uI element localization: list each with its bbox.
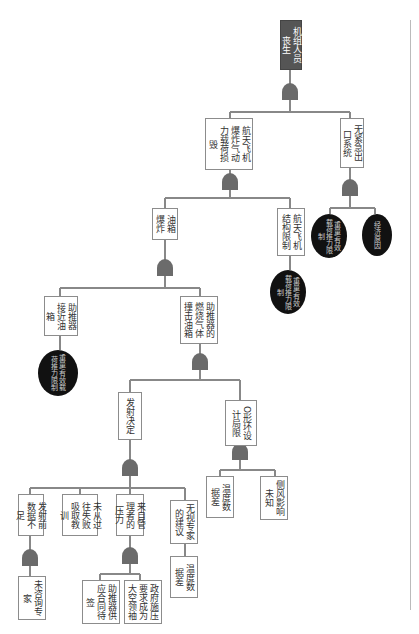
edge <box>130 344 240 400</box>
event-booster-gas-hits-tank: 助推器的燃烧气体撞击油箱 <box>180 296 218 344</box>
and-gate <box>192 353 208 370</box>
event-oring-design-limit: O形环设计局限 <box>225 400 257 446</box>
page-edge-divider <box>410 20 411 610</box>
event-prelaunch-data-insufficient: 发射前数据不足 <box>18 494 44 536</box>
and-gate <box>22 549 38 566</box>
edge <box>60 240 200 296</box>
edge <box>30 440 185 500</box>
event-airload-breakup: 航天飞机爆炸气动力载荷损毁 <box>205 118 253 170</box>
top-event-crew-death: 机组人员丧生 <box>280 20 302 70</box>
event-launch-decision: 发射决定 <box>118 392 142 440</box>
event-no-lessons-learned: 未从过往失败吸取教训 <box>62 494 98 536</box>
event-structure-limit: 航天飞机结构限制 <box>277 208 305 256</box>
and-gate <box>282 83 298 100</box>
basic-event-economic: 经济原因 <box>362 214 392 256</box>
basic-event-weight-limit: 重量/有效载荷推力限制 <box>38 350 78 396</box>
and-gate <box>122 459 138 476</box>
event-no-escape-system: 无紧急出口系统 <box>340 118 364 168</box>
and-gate <box>342 179 358 196</box>
basic-event-weight-limit: 重量/有效载荷推力限制 <box>270 270 306 314</box>
basic-event-weight-limit: 重量/有效载荷推力限制 <box>311 214 347 258</box>
event-tank-explosion: 油箱爆炸 <box>152 208 178 240</box>
event-booster-contract-pending: 助推器供应合同待签 <box>82 580 120 624</box>
event-government-pressure: 政府施压要求成为大空领袖 <box>124 580 162 624</box>
event-crosswind-unknown: 侧风影响未知 <box>260 476 288 520</box>
event-no-expert-consulted: 未咨询专家 <box>18 576 46 620</box>
and-gate <box>122 547 138 564</box>
event-ignore-expert-advice: 无视专家的建议 <box>170 500 198 544</box>
fault-tree-diagram: 机组人员丧生 航天飞机爆炸气动力载荷损毁 无紧急出口系统 重量/有效载荷推力限制… <box>0 0 419 634</box>
event-poor-temperature-data-2: 温度数据差 <box>170 556 198 598</box>
and-gate <box>157 259 173 276</box>
event-poor-temperature-data: 温度数据差 <box>206 476 234 518</box>
event-management-pressure: 来自管理者的压力 <box>116 494 144 536</box>
and-gate <box>222 173 238 190</box>
event-booster-near-tank: 助推器接近油箱 <box>44 296 78 336</box>
